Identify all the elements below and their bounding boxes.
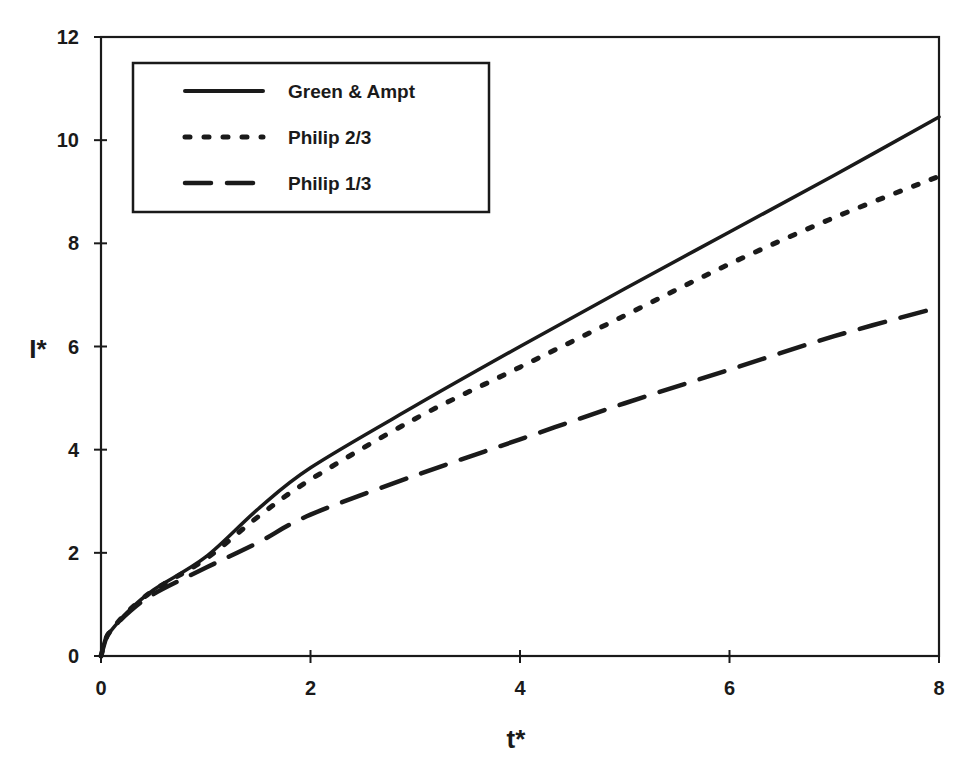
x-tick-label: 8 — [933, 677, 944, 699]
x-tick-label: 6 — [724, 677, 735, 699]
legend: Green & Ampt Philip 2/3 Philip 1/3 — [133, 63, 489, 212]
y-tick-label: 4 — [68, 439, 80, 461]
x-tick-label: 0 — [95, 677, 106, 699]
series-line-philip-1-3 — [101, 307, 939, 656]
legend-label-philip-2-3: Philip 2/3 — [288, 127, 371, 148]
y-tick-label: 2 — [68, 542, 79, 564]
y-tick-label: 8 — [68, 232, 79, 254]
infiltration-chart: 02468024681012 Green & Ampt Philip 2/3 P… — [0, 0, 970, 770]
y-axis-title: I* — [29, 334, 47, 364]
legend-label-philip-1-3: Philip 1/3 — [288, 173, 371, 194]
y-tick-label: 0 — [68, 645, 79, 667]
y-tick-label: 10 — [57, 129, 79, 151]
legend-label-green-ampt: Green & Ampt — [288, 81, 416, 102]
x-tick-label: 4 — [514, 677, 526, 699]
y-tick-label: 12 — [57, 26, 79, 48]
y-tick-label: 6 — [68, 336, 79, 358]
series-line-philip-2-3 — [101, 176, 939, 656]
x-tick-label: 2 — [305, 677, 316, 699]
x-axis-title: t* — [507, 724, 527, 754]
